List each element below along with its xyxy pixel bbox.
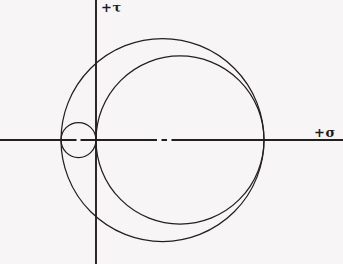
tau-axis-label: +τ: [101, 1, 122, 14]
mohr-circle-figure: +τ +σ: [0, 0, 343, 264]
sigma-axis-label: +σ: [314, 126, 335, 139]
mohr-circle-plot: [0, 0, 343, 264]
